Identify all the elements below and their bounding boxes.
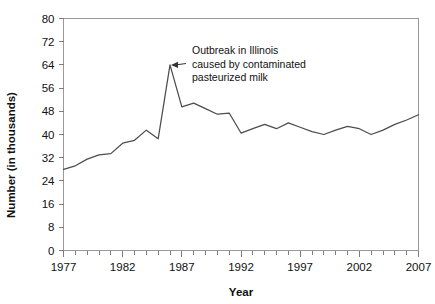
x-tick-label: 1997 [287,261,313,273]
x-tick-label: 1987 [169,261,195,273]
y-tick-label: 24 [42,175,55,187]
x-tick-label: 1992 [228,261,254,273]
x-tick-label: 1977 [51,261,77,273]
x-tick-label: 2002 [347,261,373,273]
x-axis-title: Year [229,286,254,298]
y-tick-label: 56 [42,82,55,94]
y-tick-label: 80 [42,13,55,25]
line-chart: 08162432404856647280 1977198219871992199… [0,0,435,304]
y-tick-label: 16 [42,198,55,210]
annotation-line: Outbreak in Illinois [192,44,278,56]
y-tick-label: 64 [42,59,55,71]
y-tick-label: 40 [42,129,55,141]
x-tick-label: 2007 [406,261,432,273]
x-tick-label: 1982 [110,261,136,273]
y-tick-label: 0 [48,245,54,257]
y-tick-label: 32 [42,152,55,164]
y-axis-title: Number (in thousands) [5,92,17,218]
y-tick-label: 72 [42,36,55,48]
y-tick-label: 8 [48,221,54,233]
annotation-line: caused by contaminated [192,58,306,70]
y-tick-label: 48 [42,105,55,117]
chart-container: 08162432404856647280 1977198219871992199… [0,0,435,304]
annotation-line: pasteurized milk [192,71,269,83]
